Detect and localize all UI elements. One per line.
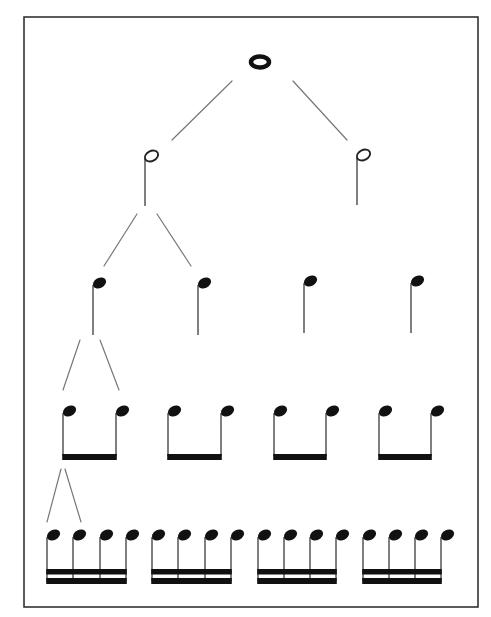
quarter-note-level bbox=[91, 273, 426, 335]
diagram-frame bbox=[24, 17, 478, 607]
sixteenth-beam-upper bbox=[257, 569, 337, 575]
eighth-beam bbox=[167, 454, 222, 460]
connector-line bbox=[293, 81, 347, 140]
half-note bbox=[355, 147, 372, 205]
eighth-note-level bbox=[61, 403, 446, 460]
half-note bbox=[143, 148, 160, 206]
eighth-note-pair bbox=[61, 403, 131, 460]
connector-line bbox=[63, 340, 80, 390]
note-value-tree-diagram: Note value subdivision tree bbox=[0, 0, 491, 617]
sixteenth-note-level bbox=[45, 527, 456, 584]
quarter-note bbox=[91, 275, 108, 335]
sixteenth-beam-upper bbox=[362, 569, 442, 575]
sixteenth-beam-lower bbox=[257, 578, 337, 584]
eighth-beam bbox=[378, 454, 432, 460]
sixteenth-note-group bbox=[150, 527, 246, 584]
quarter-note bbox=[409, 273, 426, 333]
connector-line bbox=[100, 340, 119, 390]
eighth-note-pair bbox=[377, 403, 446, 460]
connector-line bbox=[172, 81, 232, 140]
connector-line bbox=[65, 469, 81, 522]
connector-line bbox=[47, 469, 61, 522]
sixteenth-beam-upper bbox=[151, 569, 232, 575]
eighth-beam bbox=[62, 454, 117, 460]
sixteenth-beam-lower bbox=[46, 578, 127, 584]
sixteenth-beam-lower bbox=[362, 578, 442, 584]
quarter-note bbox=[196, 275, 213, 335]
sixteenth-note-group bbox=[45, 527, 141, 584]
half-note-level bbox=[143, 147, 372, 206]
eighth-note-pair bbox=[166, 403, 236, 460]
whole-note-level bbox=[251, 57, 269, 68]
sixteenth-beam-lower bbox=[151, 578, 232, 584]
sixteenth-beam-upper bbox=[46, 569, 127, 575]
connector-line bbox=[104, 214, 137, 266]
sixteenth-note-group bbox=[256, 527, 351, 584]
eighth-beam bbox=[273, 454, 327, 460]
connector-line bbox=[157, 214, 191, 266]
quarter-note bbox=[302, 273, 319, 333]
diagram-canvas bbox=[0, 0, 491, 617]
eighth-note-pair bbox=[272, 403, 341, 460]
sixteenth-note-group bbox=[361, 527, 456, 584]
whole-note-icon bbox=[251, 57, 269, 68]
